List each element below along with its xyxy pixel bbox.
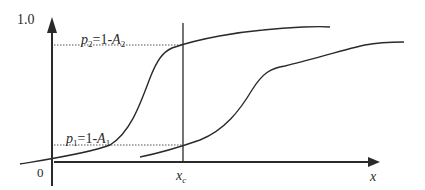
- x-axis-arrow-icon: [368, 157, 380, 167]
- xc-label: xc: [175, 168, 186, 185]
- y-axis-top-label: 1.0: [17, 12, 35, 27]
- y-axis-arrow-icon: [47, 17, 57, 33]
- p1-label: p1=1-A1: [65, 131, 110, 148]
- diagram-canvas: 1.0 0 xc x p2=1-A2 p1=1-A1: [0, 0, 425, 190]
- origin-label: 0: [37, 165, 44, 180]
- right-sigmoid-curve: [140, 42, 404, 157]
- p2-label: p2=1-A2: [80, 32, 125, 49]
- x-axis-label: x: [369, 169, 377, 184]
